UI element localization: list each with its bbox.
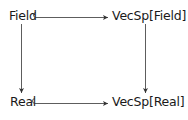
hook-arrow-bottom bbox=[33, 99, 109, 104]
hook-icon bbox=[34, 13, 37, 18]
diagram-edges bbox=[0, 0, 188, 120]
commutative-diagram: Field VecSp[Field] Real VecSp[Real] bbox=[0, 0, 188, 120]
hook-icon bbox=[33, 99, 36, 104]
hook-arrow-top bbox=[34, 13, 109, 18]
